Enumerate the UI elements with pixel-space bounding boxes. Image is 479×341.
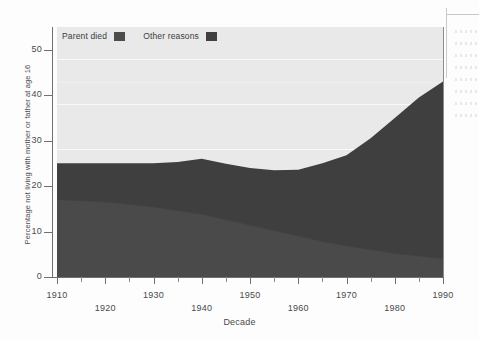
legend-item-parent-died: Parent died [62,31,125,41]
x-tick-minor-1965 [322,277,323,282]
y-tick-0 [44,277,52,278]
y-axis-line [52,27,53,278]
x-axis-title: Decade [0,317,479,327]
x-tick-label-1910: 1910 [37,290,77,300]
legend-label-other-reasons: Other reasons [143,31,199,41]
y-axis-title: Percentage not living with mother or fat… [23,35,32,275]
x-tick-label-1950: 1950 [230,290,270,300]
x-tick-1930 [154,277,155,284]
plot-area [57,27,443,277]
y-tick-30 [44,141,52,142]
legend-item-other-reasons: Other reasons [143,31,217,41]
x-tick-1920 [105,277,106,284]
y-tick-20 [44,186,52,187]
stacked-area-plot [57,27,443,277]
x-tick-minor-1945 [226,277,227,282]
x-tick-minor-1955 [274,277,275,282]
x-tick-minor-1985 [419,277,420,282]
legend-label-parent-died: Parent died [62,31,107,41]
y-tick-50 [44,50,52,51]
x-tick-label-1970: 1970 [327,290,367,300]
x-tick-label-1920: 1920 [85,303,125,313]
x-tick-1970 [347,277,348,284]
y-axis-title-wrapper: Percentage not living with mother or fat… [0,0,40,341]
x-tick-minor-1925 [129,277,130,282]
x-tick-minor-1975 [371,277,372,282]
x-tick-1950 [250,277,251,284]
x-axis-line [52,277,444,278]
legend-swatch-parent-died [114,32,125,41]
x-tick-1910 [57,277,58,284]
y-tick-10 [44,232,52,233]
plot-right-border [443,27,444,278]
x-tick-1960 [298,277,299,284]
x-tick-1980 [395,277,396,284]
x-tick-label-1990: 1990 [423,290,463,300]
x-tick-minor-1915 [81,277,82,282]
x-tick-1990 [443,277,444,284]
legend-swatch-other-reasons [206,32,217,41]
x-tick-minor-1935 [178,277,179,282]
x-tick-label-1930: 1930 [134,290,174,300]
x-tick-1940 [202,277,203,284]
area-chart-figure: Parent died Other reasons 01020304050 19… [0,0,479,341]
x-tick-label-1940: 1940 [182,303,222,313]
page-background: Parent died Other reasons 01020304050 19… [0,0,479,341]
y-tick-40 [44,95,52,96]
x-tick-label-1980: 1980 [375,303,415,313]
x-tick-label-1960: 1960 [278,303,318,313]
chart-legend: Parent died Other reasons [62,29,217,43]
